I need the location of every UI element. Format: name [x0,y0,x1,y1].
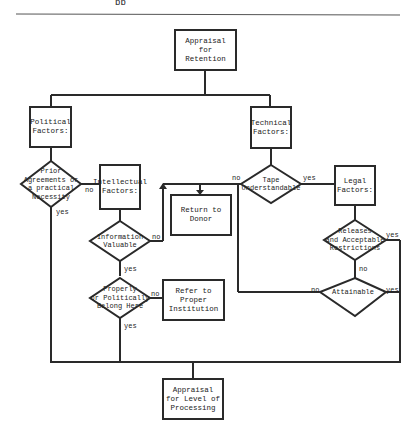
node-label: Legal Factors: [337,177,373,195]
node-intellectual-factors: Intellectual Factors: [99,164,141,210]
node-label: Technical Factors: [251,119,292,137]
edge-label-properly-yes: yes [124,322,137,330]
edge-label-tape-yes: yes [303,174,316,182]
node-label: Refer to Proper Institution [169,287,219,314]
node-label: Political Factors: [30,118,71,136]
diamond-attainable [320,278,386,316]
node-label: Return to Donor [181,206,222,224]
decision-attainable: Attainable [320,287,386,297]
node-label: Appraisal for Level of Processing [166,386,220,413]
edge-label-prior-no: no [85,186,93,194]
node-return-to-donor: Return to Donor [170,194,232,236]
edge-label-info-no: no [152,233,160,241]
edge-label-tape-no: no [232,174,240,182]
node-appraisal-for-retention: Appraisal for Retention [174,29,237,71]
decision-tape-understandable: Tape Understandable [236,174,306,194]
node-refer-to-institution: Refer to Proper Institution [162,279,225,321]
edge-label-attainable-yes: yes [386,286,399,294]
edge-label-properly-no: no [151,290,159,298]
node-legal-factors: Legal Factors: [334,165,376,206]
decision-properly-belong: Properly or Politically Belong Here [85,284,155,312]
decision-information-valuable: Information Valuable [85,231,155,251]
decision-prior-agreements: Prior Agreements or a practical Necessit… [16,165,86,203]
node-label: Appraisal for Retention [185,37,226,64]
node-technical-factors: Technical Factors: [250,106,292,149]
node-label: Intellectual Factors: [93,178,147,196]
edge-label-info-yes: yes [124,265,137,273]
node-appraisal-for-processing: Appraisal for Level of Processing [162,378,224,420]
edge-label-releases-yes: yes [386,231,399,239]
node-political-factors: Political Factors: [29,106,72,148]
edge-label-prior-yes: yes [56,208,69,216]
edge-label-releases-no: no [359,265,367,273]
decision-releases-restrictions: Releases and Acceptable Restrictions [318,226,392,254]
edge-label-attainable-no: no [311,286,319,294]
